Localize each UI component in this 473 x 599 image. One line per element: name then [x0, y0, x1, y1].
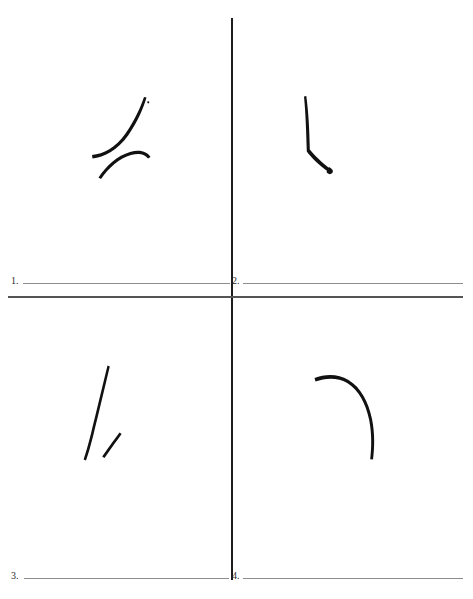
- quadrant-bottom-right[interactable]: [233, 300, 473, 568]
- quadrant-bottom-left[interactable]: [0, 300, 231, 568]
- quadrant-top-right[interactable]: [233, 0, 473, 272]
- answer-line-3[interactable]: [24, 578, 229, 579]
- quadrant-top-left[interactable]: [0, 0, 231, 272]
- item-number-3: 3.: [11, 571, 19, 581]
- answer-line-1[interactable]: [23, 283, 230, 284]
- worksheet-page: 1. 2. 3. 4.: [0, 0, 473, 599]
- item-number-4: 4.: [232, 571, 240, 581]
- answer-line-4[interactable]: [243, 578, 463, 579]
- answer-line-2[interactable]: [243, 283, 463, 284]
- item-number-2: 2.: [232, 276, 240, 286]
- horizontal-divider-line: [8, 296, 463, 298]
- item-number-1: 1.: [11, 276, 19, 286]
